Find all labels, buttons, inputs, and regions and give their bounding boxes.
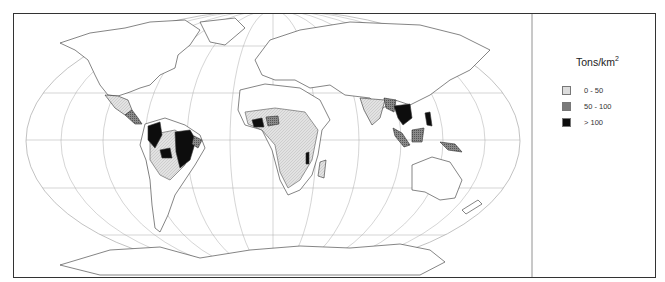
legend-swatch-medium [562,102,571,111]
png-medium [440,142,462,152]
indochina-high [394,104,412,125]
legend-item-high: > 100 [562,117,603,127]
ivory-coast-high [252,118,264,127]
legend-label-low: 0 - 50 [584,86,603,95]
borneo-medium [412,128,424,142]
sumatra-medium [393,128,410,147]
legend-title-superscript: 2 [615,55,619,62]
continents [60,18,490,275]
north-america [60,20,200,96]
india-low [360,98,385,125]
legend-label-high: > 100 [584,118,603,127]
map-body [20,10,530,275]
greenland [200,18,245,45]
nigeria-medium [266,116,279,126]
legend-label-medium: 50 - 100 [584,102,612,111]
philippines-high [425,112,432,126]
new-zealand [462,200,482,214]
malawi-high [306,152,309,164]
antarctica [60,244,445,275]
bolivia-high [160,148,172,158]
legend-item-medium: 50 - 100 [562,101,612,111]
legend-title-text: Tons/km [576,56,615,68]
legend-item-low: 0 - 50 [562,85,603,95]
myanmar-medium [384,98,396,112]
legend: Tons/km2 0 - 50 50 - 100 > 100 [532,13,656,278]
legend-title: Tons/km2 [576,55,619,68]
mexico [105,95,132,115]
legend-swatch-low [562,86,571,95]
australia [412,157,462,200]
madagascar [318,160,326,178]
legend-swatch-high [562,118,571,127]
